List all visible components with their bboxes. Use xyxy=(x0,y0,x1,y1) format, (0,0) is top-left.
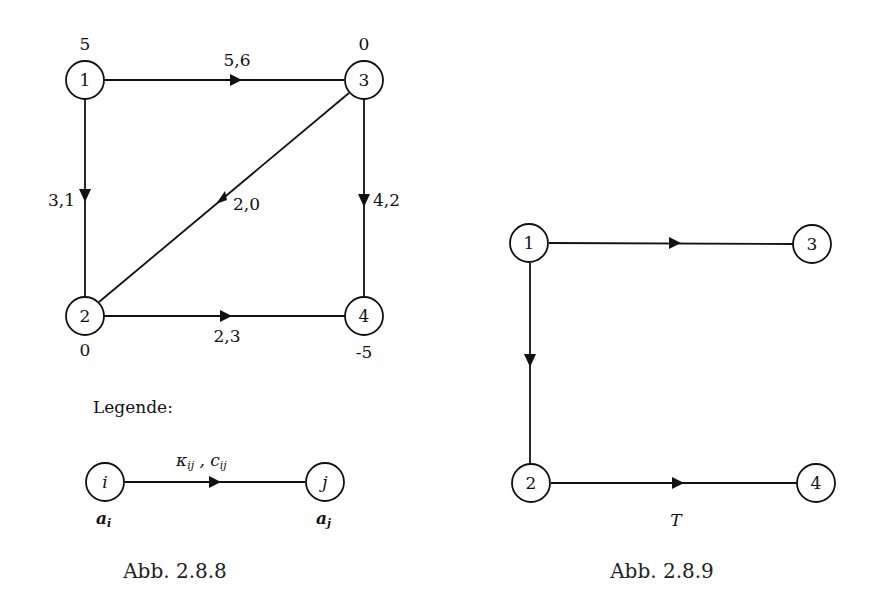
tree-node-3: 3 xyxy=(793,225,831,263)
arrow-down-icon xyxy=(358,194,370,207)
edge-2-3 xyxy=(99,93,349,302)
node-id: i xyxy=(102,472,107,492)
legend-node-j: j xyxy=(306,463,344,501)
tree-edge-1-2 xyxy=(524,263,536,463)
spanning-tree-graph: 1 3 2 4 T xyxy=(510,224,835,530)
edge-label-1-3: 5,6 xyxy=(223,50,250,70)
node-3: 3 xyxy=(345,61,383,99)
arrow-down-icon xyxy=(524,354,536,367)
edge-1-2 xyxy=(79,99,91,296)
node-id: 1 xyxy=(80,70,91,90)
node-id: 3 xyxy=(807,234,818,254)
tree-node-1: 1 xyxy=(510,224,548,262)
node-2: 2 xyxy=(66,297,104,335)
legend-edge xyxy=(125,476,305,488)
legend-edge-label: κij , cij xyxy=(175,450,227,472)
legend-a-i: ai xyxy=(96,508,111,530)
supply-node-1: 5 xyxy=(80,34,91,54)
arrow-right-icon xyxy=(669,237,681,249)
supply-node-3: 0 xyxy=(359,34,370,54)
tree-node-2: 2 xyxy=(512,464,550,502)
arrow-diagonal-icon xyxy=(216,191,227,204)
legend-title: Legende: xyxy=(93,397,173,417)
node-id: 1 xyxy=(524,233,535,253)
node-4: 4 xyxy=(345,297,383,335)
edge-label-3-4: 4,2 xyxy=(373,190,400,210)
tree-edge-2-4 xyxy=(551,477,797,489)
node-id: 4 xyxy=(811,473,822,493)
edge-1-3 xyxy=(104,74,344,86)
network-graph: 1 3 2 4 5 0 0 -5 5,6 3,1 2,0 4,2 2,3 xyxy=(48,34,400,362)
edge-label-2-4: 2,3 xyxy=(213,326,240,346)
caption-right: Abb. 2.8.9 xyxy=(609,559,714,583)
edge-3-4 xyxy=(358,99,370,297)
supply-node-4: -5 xyxy=(356,342,373,362)
figure-canvas: 1 3 2 4 5 0 0 -5 5,6 3,1 2,0 4,2 2,3 Leg… xyxy=(0,0,874,606)
tree-node-4: 4 xyxy=(797,464,835,502)
arrow-right-icon xyxy=(209,476,221,488)
node-id: 3 xyxy=(359,70,370,90)
node-id: 4 xyxy=(359,306,370,326)
supply-node-2: 0 xyxy=(80,340,91,360)
arrow-right-icon xyxy=(672,477,684,489)
edge-label-1-2: 3,1 xyxy=(48,190,75,210)
node-id: 2 xyxy=(526,473,537,493)
legend-a-j: aj xyxy=(316,508,331,530)
node-id: 2 xyxy=(80,306,91,326)
edge-label-2-3: 2,0 xyxy=(233,194,260,214)
caption-left: Abb. 2.8.8 xyxy=(122,559,227,583)
arrow-down-icon xyxy=(79,189,91,202)
arrow-right-icon xyxy=(220,310,232,322)
arrow-right-icon xyxy=(230,74,242,86)
legend: Legende: i j κij , cij ai aj xyxy=(86,397,344,530)
legend-node-i: i xyxy=(86,463,124,501)
node-1: 1 xyxy=(66,61,104,99)
tree-label: T xyxy=(670,510,683,530)
tree-edge-1-3 xyxy=(549,237,793,249)
edge-2-4 xyxy=(104,310,345,322)
